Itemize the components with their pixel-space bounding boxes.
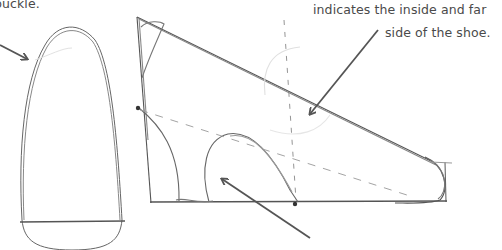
arrow-to-inside xyxy=(310,30,378,114)
arrow-to-sole xyxy=(0,45,27,59)
arrow-to-heel-arch xyxy=(222,179,310,238)
buckle-label: buckle. xyxy=(0,0,40,11)
shoe-side-view xyxy=(136,17,452,206)
inside-far-label-line1: indicates the inside and far xyxy=(313,3,486,17)
sole-top-view xyxy=(20,27,125,250)
inside-far-label-line2: side of the shoe. xyxy=(385,26,491,40)
